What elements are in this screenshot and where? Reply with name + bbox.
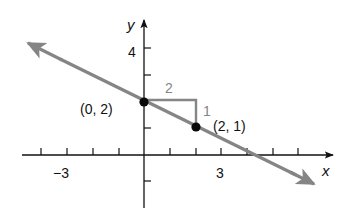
line-right-arrow [290, 172, 314, 184]
x-axis-label: x [321, 162, 330, 179]
line-main-segment [60, 59, 296, 175]
x-tick-label-3: 3 [216, 165, 224, 181]
point-label-0-2: (0, 2) [80, 101, 113, 117]
rise-label: 1 [203, 103, 211, 119]
run-label: 2 [165, 80, 173, 96]
coordinate-plane: y x 4 −3 3 (0, 2) (2, 1) 2 1 [0, 0, 342, 214]
y-tick-label-4: 4 [128, 44, 136, 60]
y-axis-label: y [126, 16, 136, 33]
point-0-2 [139, 97, 148, 106]
x-ticks [41, 148, 298, 155]
point-2-1 [191, 122, 200, 131]
x-tick-label-neg3: −3 [53, 165, 69, 181]
line-y-eq-neg-half-x-plus-2 [28, 43, 62, 60]
y-ticks [144, 48, 151, 181]
point-label-2-1: (2, 1) [213, 118, 246, 134]
